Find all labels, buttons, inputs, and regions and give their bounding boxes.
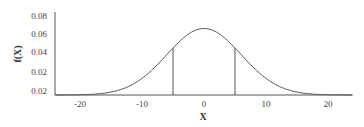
- x-tick-label: 10: [262, 99, 272, 109]
- y-axis-label: f(X): [12, 45, 24, 62]
- y-axis-ticks: 0.080.060.040.020.02: [31, 11, 47, 96]
- x-axis-label: X: [199, 111, 207, 122]
- density-curve: [55, 29, 353, 96]
- interval-lines: [173, 48, 235, 95]
- y-tick-label: 0.02: [31, 86, 47, 96]
- y-tick-label: 0.06: [31, 29, 47, 39]
- x-tick-label: 20: [324, 99, 334, 109]
- y-tick-label: 0.02: [31, 67, 47, 77]
- x-tick-label: -10: [136, 99, 148, 109]
- normal-density-chart: 0.080.060.040.020.02 -20-1001020 X f(X): [0, 0, 364, 127]
- y-tick-label: 0.04: [31, 47, 47, 57]
- x-tick-label: -20: [74, 99, 86, 109]
- x-axis-ticks: -20-1001020: [74, 99, 333, 109]
- x-tick-label: 0: [202, 99, 207, 109]
- y-tick-label: 0.08: [31, 11, 47, 21]
